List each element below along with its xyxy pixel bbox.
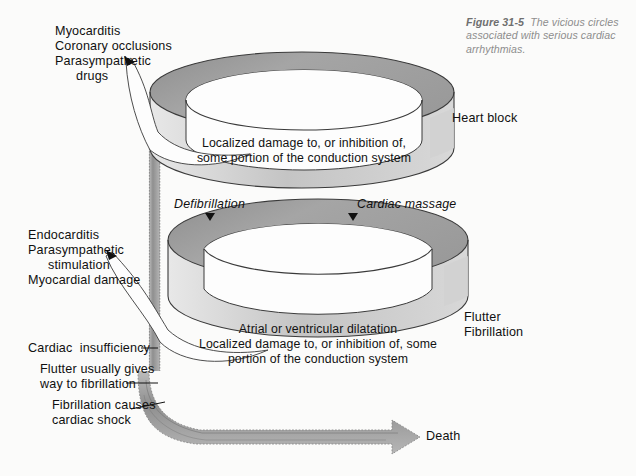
consequence-item-2-line-2: way to fibrillation <box>40 377 136 392</box>
lower-cause-line-1: Endocarditis <box>28 228 99 243</box>
upper-cause-line-2: Coronary occlusions <box>55 39 172 54</box>
caption-line-2: associated with serious cardiac <box>466 29 626 42</box>
lower-cause-line-4: Myocardial damage <box>28 273 140 288</box>
consequence-item-3-line-1: Fibrillation causes <box>52 398 156 413</box>
caption-figure-number: Figure 31-5 <box>466 16 524 28</box>
caption-line-3: arrhythmias. <box>466 43 626 56</box>
lower-ring-text-line-2: Localized damage to, or inhibition of, s… <box>186 337 450 352</box>
caption-text-1: The vicious circles <box>530 16 618 28</box>
lower-outcome-line-1: Flutter <box>464 310 501 325</box>
lower-ring-text-line-1: Atrial or ventricular dilatation <box>196 322 440 337</box>
consequence-item-2-line-1: Flutter usually gives <box>40 362 154 377</box>
death-arrow-band <box>138 371 420 454</box>
upper-cause-line-1: Myocarditis <box>55 24 120 39</box>
caption-line-1: Figure 31-5 The vicious circles <box>466 16 626 29</box>
upper-outcome-label: Heart block <box>452 111 517 126</box>
cardiac-massage-label: Cardiac massage <box>357 197 456 212</box>
death-label: Death <box>426 429 460 444</box>
upper-cause-line-3: Parasympathetic <box>55 54 151 69</box>
lower-cause-line-2: Parasympathetic <box>28 243 124 258</box>
consequence-item-3-line-2: cardiac shock <box>52 413 131 428</box>
lower-outcome-line-2: Fibrillation <box>464 325 523 340</box>
consequence-item-1: Cardiac insufficiency <box>28 341 150 356</box>
upper-ring-text-line-1: Localized damage to, or inhibition of, <box>186 136 422 151</box>
figure-caption: Figure 31-5 The vicious circles associat… <box>466 16 626 56</box>
figure-page: Figure 31-5 The vicious circles associat… <box>0 0 636 476</box>
upper-cause-line-4: drugs <box>76 69 108 84</box>
lower-cause-line-3: stimulation <box>48 258 110 273</box>
upper-ring-text-line-2: some portion of the conduction system <box>186 151 422 166</box>
upper-cylinder <box>150 52 454 188</box>
lower-ring-text-line-3: portion of the conduction system <box>196 352 440 367</box>
lower-cylinder <box>168 199 468 337</box>
defibrillation-label: Defibrillation <box>174 197 245 212</box>
